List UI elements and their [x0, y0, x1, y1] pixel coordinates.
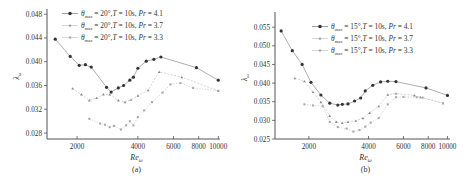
panel-label: (a): [132, 165, 141, 174]
y-tick-label: 0.030: [254, 117, 271, 125]
y-tick-label: 0.025: [254, 136, 271, 144]
series-triangle: [294, 77, 445, 124]
x-tick-label: 6000: [396, 143, 411, 151]
x-tick-label: 10000: [209, 143, 227, 151]
figure: 0.0280.0320.0360.0400.0440.0482000400060…: [0, 0, 468, 185]
panel-label: (b): [361, 165, 371, 174]
series-triangle: [71, 71, 219, 104]
x-tick-label: 2000: [302, 143, 317, 151]
y-tick-label: 0.032: [26, 106, 43, 114]
y-tick-label: 0.040: [26, 58, 43, 66]
y-tick-label: 0.035: [254, 98, 271, 106]
legend-entry: θmax = 20°,T = 10s, Pr = 3.7: [81, 21, 163, 31]
x-axis-label: Reω: [129, 153, 142, 163]
y-axis-label: λω: [240, 74, 250, 82]
y-tick-label: 0.050: [254, 42, 271, 50]
y-tick-label: 0.048: [26, 11, 43, 19]
y-tick-label: 0.028: [26, 130, 43, 138]
chart-panel-b: 0.0250.0300.0350.0400.0450.0500.05520004…: [240, 12, 457, 174]
y-tick-label: 0.045: [254, 61, 271, 69]
y-tick-label: 0.044: [26, 34, 43, 42]
x-tick-label: 4000: [131, 143, 146, 151]
legend: θmax = 20°,T = 10s, Pr = 4.1θmax = 20°,T…: [62, 9, 163, 43]
legend-entry: θmax = 15°,T = 10s, Pr = 4.1: [331, 22, 413, 32]
x-tick-label: 4000: [361, 143, 376, 151]
y-tick-label: 0.036: [26, 82, 43, 90]
y-tick-label: 0.040: [254, 80, 271, 88]
legend-entry: θmax = 20°,T = 10s, Pr = 3.3: [81, 33, 163, 43]
x-tick-label: 8000: [421, 143, 436, 151]
legend: θmax = 15°,T = 10s, Pr = 4.1θmax = 15°,T…: [312, 22, 413, 56]
series-square: [303, 96, 444, 133]
x-axis-label: Reω: [358, 153, 371, 163]
chart-panel-a: 0.0280.0320.0360.0400.0440.0482000400060…: [12, 9, 228, 174]
y-axis-label: λω: [12, 72, 22, 80]
legend-entry: θmax = 20°,T = 10s, Pr = 4.1: [81, 9, 163, 19]
x-tick-label: 10000: [438, 143, 456, 151]
x-tick-label: 8000: [191, 143, 206, 151]
legend-entry: θmax = 15°,T = 10s, Pr = 3.3: [331, 46, 413, 56]
y-tick-label: 0.055: [254, 24, 271, 32]
legend-entry: θmax = 15°,T = 10s, Pr = 3.7: [331, 34, 413, 44]
x-tick-label: 6000: [166, 143, 181, 151]
series-square: [88, 82, 219, 130]
x-tick-label: 2000: [70, 143, 85, 151]
series-circle: [54, 38, 220, 94]
